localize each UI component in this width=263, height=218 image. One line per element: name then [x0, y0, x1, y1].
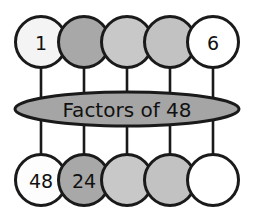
diagram-canvas: 1 6 Factors of 48: [0, 0, 263, 218]
top-node-5[interactable]: 6: [188, 17, 239, 68]
top-node-5-label: 6: [207, 32, 219, 54]
top-row-group: 1 6: [16, 17, 239, 68]
bottom-node-1-label: 48: [29, 170, 53, 192]
top-node-1-label: 1: [35, 32, 47, 54]
factors-of-48-diagram: 1 6 Factors of 48: [0, 0, 263, 218]
bottom-node-5-circle[interactable]: [188, 155, 239, 206]
bottom-node-2-label: 24: [72, 170, 96, 192]
center-label: Factors of 48: [62, 98, 191, 122]
bottom-row-group: 48 24: [16, 155, 239, 206]
bottom-node-5[interactable]: [188, 155, 239, 206]
center-node[interactable]: Factors of 48: [15, 92, 239, 126]
